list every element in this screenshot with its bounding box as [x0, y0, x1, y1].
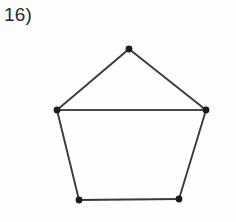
- vertex-left-dot: [54, 107, 61, 114]
- vertex-right-dot: [203, 107, 210, 114]
- edge-left-side-segment: [57, 110, 79, 200]
- pentagon-vertices: [54, 46, 210, 204]
- edge-bottom-segment: [79, 199, 179, 200]
- figure-container: 16): [0, 0, 236, 222]
- vertex-bottom-right-dot: [176, 196, 183, 203]
- edge-top-left-segment: [57, 49, 129, 110]
- edge-right-side-segment: [179, 110, 206, 199]
- pentagon-diagram: [0, 0, 236, 222]
- vertex-top-dot: [126, 46, 133, 53]
- vertex-bottom-left-dot: [76, 197, 83, 204]
- edge-top-right-segment: [129, 49, 206, 110]
- pentagon-edges: [57, 49, 206, 200]
